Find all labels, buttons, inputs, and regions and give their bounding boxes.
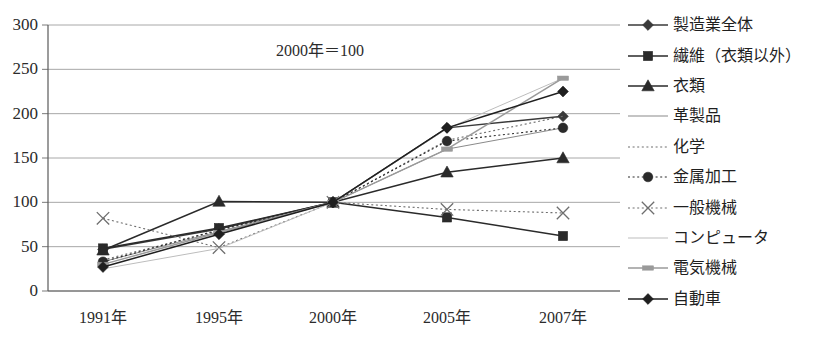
y-axis-tick-label: 0 [4,282,38,299]
legend-marker-icon [626,47,670,65]
legend-marker-icon [626,168,670,186]
x-axis-tick-label: 2007年 [518,310,608,326]
data-point-marker [643,172,653,182]
legend-item-label: 衣類 [673,78,705,94]
legend-item-6[interactable]: 一般機械 [626,192,827,222]
data-point-marker [643,20,654,31]
legend-marker-icon [626,199,670,217]
chart-container: 050100150200250300 1991年1995年2000年2005年2… [0,0,827,354]
series-line [103,116,563,260]
data-point-marker [441,147,452,151]
legend-item-0[interactable]: 製造業全体 [626,10,827,40]
data-point-marker [97,212,109,224]
y-axis-tick-label: 300 [4,16,38,33]
x-axis-tick-label: 1991年 [58,310,148,326]
data-point-marker [557,207,569,219]
data-point-marker [557,76,568,80]
series-0 [98,111,569,255]
legend-item-label: 自動車 [673,291,721,307]
x-axis-tick-label: 2005年 [402,310,492,326]
legend-marker-icon [626,229,670,247]
legend-item-2[interactable]: 衣類 [626,71,827,101]
legend-marker-icon [626,138,670,156]
data-point-marker [213,241,225,253]
series-4 [103,116,563,260]
legend-item-5[interactable]: 金属加工 [626,162,827,192]
data-point-marker [558,231,567,240]
legend-marker-icon [626,16,670,34]
x-axis-tick-label: 2000年 [288,310,378,326]
series-line [103,128,563,262]
series-line [103,128,563,262]
y-axis-tick-label: 200 [4,105,38,122]
series-7 [103,78,563,269]
legend-item-8[interactable]: 電気機械 [626,253,827,283]
chart-legend: 製造業全体繊維（衣類以外）衣類革製品化学金属加工一般機械コンピュータ電気機械自動… [626,10,827,314]
data-point-marker [642,266,653,270]
series-line [103,92,563,268]
legend-marker-icon [626,107,670,125]
data-point-marker [558,86,569,97]
legend-item-1[interactable]: 繊維（衣類以外） [626,40,827,70]
series-3 [103,128,563,262]
legend-item-9[interactable]: 自動車 [626,284,827,314]
legend-item-label: 化学 [673,139,705,155]
data-point-marker [442,213,451,222]
y-axis-tick-label: 50 [4,238,38,255]
legend-item-label: 一般機械 [673,200,737,216]
legend-item-label: 繊維（衣類以外） [673,48,801,64]
legend-marker-icon [626,290,670,308]
legend-marker-icon [626,77,670,95]
legend-item-7[interactable]: コンピュータ [626,223,827,253]
legend-marker-icon [626,259,670,277]
data-point-marker [643,293,654,304]
data-point-marker [558,111,569,122]
y-axis-tick-label: 150 [4,149,38,166]
y-axis-tick-label: 250 [4,60,38,77]
data-point-marker [643,51,652,60]
base-year-annotation: 2000年＝100 [276,37,364,61]
series-line [103,202,563,248]
legend-item-label: コンピュータ [673,230,769,246]
legend-item-4[interactable]: 化学 [626,132,827,162]
legend-item-label: 金属加工 [673,169,737,185]
x-axis-tick-label: 1995年 [174,310,264,326]
legend-item-label: 製造業全体 [673,17,753,33]
y-axis-tick-label: 100 [4,193,38,210]
legend-item-label: 革製品 [673,108,721,124]
data-point-marker [558,123,568,133]
series-line [103,78,563,269]
legend-item-3[interactable]: 革製品 [626,101,827,131]
data-point-marker [442,136,452,146]
legend-item-label: 電気機械 [673,260,737,276]
data-point-marker [557,152,569,163]
